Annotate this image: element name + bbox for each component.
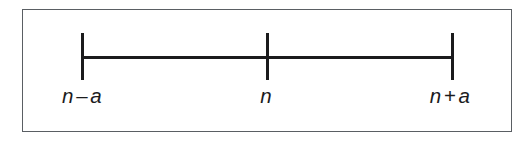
tick-label-right-variable: n <box>430 84 442 107</box>
number-line-group: n–a n n+a <box>0 0 527 146</box>
tick-mark-right <box>451 33 454 80</box>
tick-label-left-operator: – <box>74 84 91 107</box>
tick-label-left: n–a <box>32 84 132 108</box>
figure-root: n–a n n+a <box>0 0 527 146</box>
tick-mark-center <box>266 33 269 80</box>
tick-label-center-variable: n <box>260 84 272 107</box>
tick-label-center: n <box>216 84 316 108</box>
tick-label-right-offset: a <box>459 84 471 107</box>
tick-label-left-offset: a <box>90 84 102 107</box>
tick-mark-left <box>81 33 84 80</box>
tick-label-left-variable: n <box>62 84 74 107</box>
tick-label-right-operator: + <box>441 84 458 107</box>
tick-label-right: n+a <box>400 84 500 108</box>
